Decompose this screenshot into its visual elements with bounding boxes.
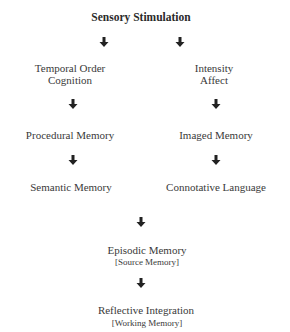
down-arrow-icon [211, 99, 221, 109]
node-source-memory: [Source Memory] [115, 257, 179, 267]
node-connotative-language: Connotative Language [166, 181, 266, 193]
down-arrow-icon [68, 99, 78, 109]
node-reflective-integration: Reflective Integration [98, 304, 194, 316]
down-arrow-icon [211, 155, 221, 165]
node-affect: Affect [200, 74, 228, 86]
down-arrow-icon [68, 155, 78, 165]
down-arrow-icon [136, 278, 146, 288]
node-cognition: Cognition [48, 74, 92, 86]
node-imaged-memory: Imaged Memory [179, 129, 253, 141]
node-semantic-memory: Semantic Memory [30, 181, 112, 193]
down-arrow-icon [175, 37, 185, 47]
node-episodic-memory: Episodic Memory [107, 244, 186, 256]
node-procedural-memory: Procedural Memory [26, 129, 114, 141]
node-working-memory: [Working Memory] [112, 318, 183, 328]
node-temporal-order: Temporal Order [35, 62, 105, 74]
node-sensory-stimulation: Sensory Stimulation [91, 11, 190, 23]
down-arrow-icon [136, 217, 146, 227]
down-arrow-icon [99, 37, 109, 47]
node-intensity: Intensity [195, 62, 234, 74]
